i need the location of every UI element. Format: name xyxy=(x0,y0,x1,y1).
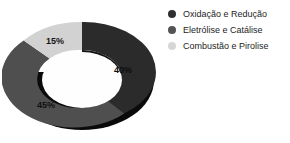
chart-legend: Oxidação e Redução Eletrólise e Catálise… xyxy=(168,6,290,54)
legend-item-oxidacao-e-reducao[interactable]: Oxidação e Redução xyxy=(168,6,290,22)
slice-value-label-combustao: 15% xyxy=(46,36,64,46)
legend-item-eletrolise-e-catalise[interactable]: Eletrólise e Catálise xyxy=(168,22,290,38)
legend-item-combustao-e-pirolise[interactable]: Combustão e Pirolise xyxy=(168,38,290,54)
legend-label: Combustão e Pirolise xyxy=(183,41,269,52)
donut-plot-area: 40% 45% 15% xyxy=(2,10,162,135)
legend-label: Oxidação e Redução xyxy=(183,9,267,20)
legend-swatch-icon xyxy=(168,10,176,18)
donut-chart: 40% 45% 15% Oxidação e Redução Eletrólis… xyxy=(0,0,290,143)
legend-swatch-icon xyxy=(168,42,176,50)
legend-label: Eletrólise e Catálise xyxy=(183,25,263,36)
donut-svg xyxy=(2,10,162,135)
legend-swatch-icon xyxy=(168,26,176,34)
slice-value-label-oxidacao: 40% xyxy=(114,65,132,75)
slice-value-label-eletrolise: 45% xyxy=(37,100,55,110)
